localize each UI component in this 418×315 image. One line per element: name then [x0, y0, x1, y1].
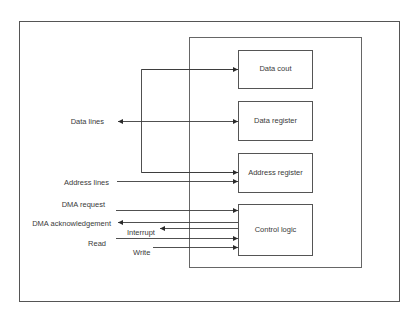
dma-acknowledgement-label: DMA acknowledgement — [14, 219, 111, 229]
read-label: Read — [20, 239, 106, 249]
data-lines-label: Data lines — [20, 117, 104, 127]
interrupt-label: Interrupt — [127, 228, 155, 238]
data-register-label: Data register — [238, 116, 313, 126]
write-label: Write — [133, 248, 150, 258]
dma-request-label: DMA request — [20, 200, 105, 210]
address-lines-label: Address lines — [20, 178, 109, 188]
address-register-label: Address register — [238, 168, 313, 178]
data-count-label: Data cout — [238, 64, 313, 74]
control-logic-label: Control logic — [238, 225, 313, 235]
outer-frame — [20, 22, 400, 302]
diagram-canvas — [0, 0, 418, 315]
